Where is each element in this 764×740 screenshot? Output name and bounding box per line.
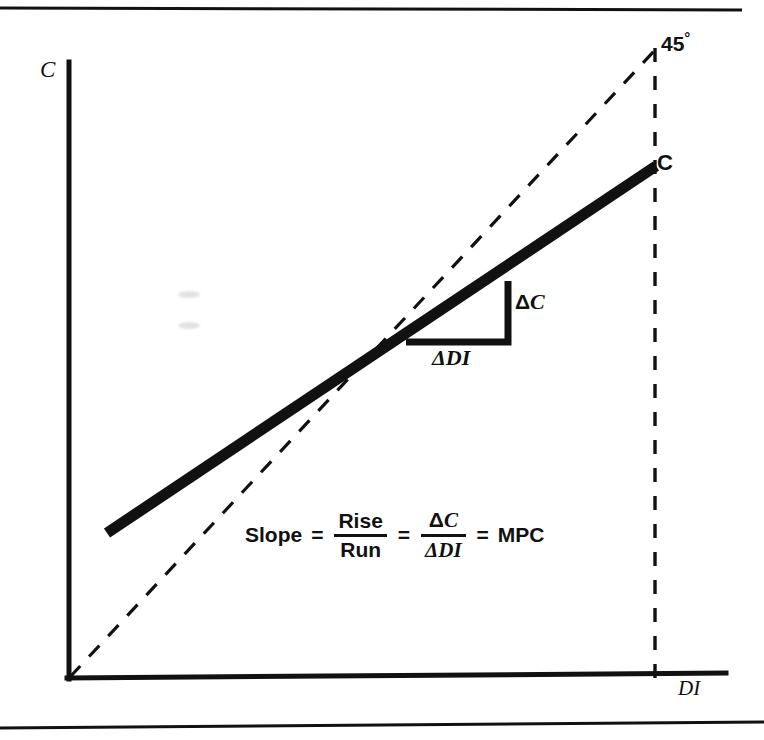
formula-delta-di: ΔDI: [421, 537, 466, 563]
formula-equals-2: =: [398, 523, 410, 547]
page-bottom-rule: [0, 722, 764, 728]
consumption-function-diagram: [0, 0, 764, 740]
scan-artifact-upper: [178, 291, 200, 298]
delta-di-variable: DI: [446, 345, 470, 370]
formula-equals-1: =: [311, 523, 323, 547]
formula-delta-di-variable: DI: [438, 538, 461, 562]
slope-triangle-legs: [406, 281, 508, 342]
y-axis-label: C: [40, 58, 55, 81]
delta-symbol: Δ: [515, 290, 530, 313]
delta-di-label: ΔDI: [432, 347, 470, 369]
delta-c-variable: C: [530, 289, 545, 314]
scan-artifact-lower: [178, 322, 200, 329]
slope-formula: Slope = Rise Run = ΔC ΔDI = MPC: [245, 508, 545, 563]
formula-run: Run: [336, 537, 385, 562]
delta-symbol: Δ: [425, 538, 438, 562]
formula-delta-c: ΔC: [425, 508, 462, 534]
formula-rise-over-run: Rise Run: [334, 509, 386, 562]
consumption-curve-label: C: [657, 152, 673, 174]
formula-slope-word: Slope: [245, 523, 302, 547]
figure-root: C DI 45° C ΔC ΔDI Slope = Rise Run = ΔC …: [0, 0, 764, 740]
degree-symbol: °: [684, 29, 690, 46]
delta-symbol: Δ: [429, 508, 444, 531]
delta-symbol: Δ: [432, 345, 446, 370]
page-top-rule: [0, 8, 742, 10]
x-axis-label: DI: [678, 678, 700, 699]
delta-c-label: ΔC: [515, 291, 545, 313]
x-axis: [67, 673, 726, 678]
formula-deltac-over-deltadi: ΔC ΔDI: [421, 508, 466, 563]
formula-mpc: MPC: [498, 523, 545, 547]
consumption-function-line: [107, 166, 656, 533]
forty-five-degree-label: 45°: [661, 33, 690, 54]
formula-equals-3: =: [477, 523, 489, 547]
formula-rise: Rise: [334, 509, 386, 534]
forty-five-value: 45: [661, 32, 684, 55]
formula-delta-c-variable: C: [444, 508, 458, 532]
